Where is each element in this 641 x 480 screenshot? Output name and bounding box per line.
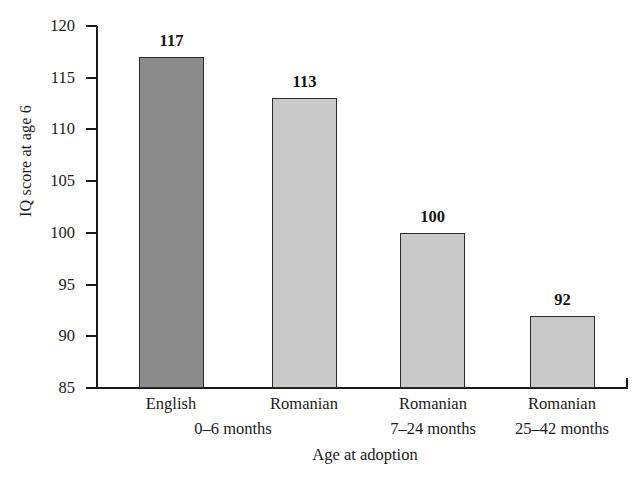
plot-area: 11711310092 <box>96 26 628 388</box>
x-axis-title: Age at adoption <box>245 447 485 464</box>
x-axis-category-label: Romanian <box>487 395 637 414</box>
bar <box>400 233 465 388</box>
y-axis-tick-label: 105 <box>17 173 75 190</box>
bar-chart: IQ score at age 6 859095100105110115120 … <box>0 0 641 480</box>
x-axis-category-label: Romanian <box>358 395 508 414</box>
y-axis-tick-label: 90 <box>17 328 75 345</box>
x-axis-category-sublabel: 0–6 months <box>148 420 318 439</box>
bar-value-label: 100 <box>388 209 478 226</box>
bar <box>139 57 204 388</box>
y-axis-tick-label: 115 <box>17 70 75 87</box>
bar-value-label: 117 <box>127 33 217 50</box>
x-axis-category-label: English <box>96 395 246 414</box>
bar <box>272 98 337 388</box>
x-axis-category-label: Romanian <box>229 395 379 414</box>
bar-value-label: 113 <box>260 74 350 91</box>
bar-value-label: 92 <box>518 292 608 309</box>
y-axis-tick-label: 120 <box>17 18 75 35</box>
y-axis-tick-label: 110 <box>17 121 75 138</box>
y-axis-tick-label: 95 <box>17 277 75 294</box>
x-axis-category-sublabel: 25–42 months <box>477 420 641 439</box>
y-axis-tick-label: 100 <box>17 225 75 242</box>
bar <box>530 316 595 388</box>
y-axis-tick-label: 85 <box>17 380 75 397</box>
